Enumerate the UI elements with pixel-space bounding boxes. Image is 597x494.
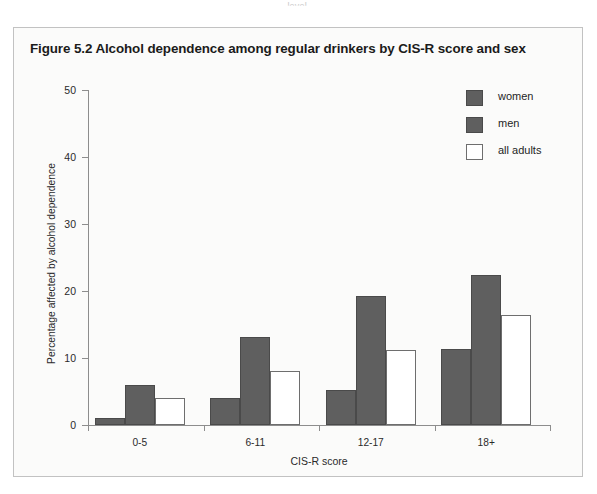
legend-label-all-adults: all adults <box>498 144 541 156</box>
x-tick-mark <box>435 425 436 431</box>
x-tick-label: 6-11 <box>245 437 265 448</box>
bar-women-12-17 <box>326 390 356 425</box>
y-tick-label: 30 <box>36 218 76 230</box>
bar-all-adults-12-17 <box>386 350 416 425</box>
bar-all-adults-18+ <box>501 315 531 425</box>
legend-label-women: women <box>498 90 533 102</box>
y-axis-title: Percentage affected by alcohol dependenc… <box>46 149 57 379</box>
bar-men-0-5 <box>125 385 155 425</box>
bar-men-18+ <box>471 275 501 425</box>
bar-women-6-11 <box>210 398 240 425</box>
bar-all-adults-0-5 <box>155 398 185 425</box>
y-tick-mark <box>82 224 88 225</box>
y-tick-mark <box>82 358 88 359</box>
bar-chart-plot: Percentage affected by alcohol dependenc… <box>0 0 597 494</box>
legend-swatch-all-adults-icon <box>466 144 483 160</box>
x-tick-mark <box>550 425 551 431</box>
bar-men-12-17 <box>356 296 386 425</box>
y-tick-label: 10 <box>36 352 76 364</box>
bar-all-adults-6-11 <box>270 371 300 425</box>
bar-men-6-11 <box>240 337 270 425</box>
y-tick-mark <box>82 90 88 91</box>
y-tick-label: 20 <box>36 285 76 297</box>
bar-women-0-5 <box>95 418 125 425</box>
y-tick-mark <box>82 157 88 158</box>
y-tick-label: 50 <box>36 84 76 96</box>
x-tick-label: 12-17 <box>358 437 384 448</box>
x-tick-mark <box>204 425 205 431</box>
y-axis-line <box>88 90 89 426</box>
x-axis-title: CIS-R score <box>88 455 550 467</box>
x-tick-label: 0-5 <box>132 437 147 448</box>
legend-swatch-men-icon <box>466 117 483 133</box>
legend-label-men: men <box>498 117 519 129</box>
bar-women-18+ <box>441 349 471 425</box>
x-tick-mark <box>88 425 89 431</box>
y-tick-label: 0 <box>36 419 76 431</box>
legend-swatch-women-icon <box>466 90 483 106</box>
y-tick-mark <box>82 291 88 292</box>
x-tick-label: 18+ <box>478 437 495 448</box>
y-tick-label: 40 <box>36 151 76 163</box>
x-tick-mark <box>319 425 320 431</box>
